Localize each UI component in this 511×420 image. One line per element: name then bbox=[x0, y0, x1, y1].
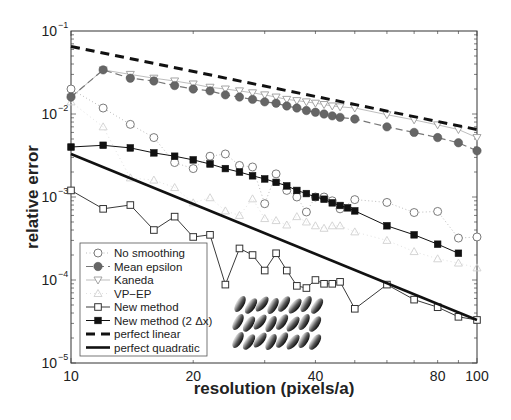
x-tick-label: 10 bbox=[63, 368, 79, 384]
legend-label: perfect quadratic bbox=[114, 342, 200, 354]
y-tick-label: 10 bbox=[41, 189, 57, 205]
y-tick-labels: 10−510−410−310−210−1 bbox=[41, 20, 68, 371]
legend: No smoothingMean epsilonKanedaVP−EPNew m… bbox=[80, 243, 213, 356]
svg-text:−4: −4 bbox=[58, 269, 68, 279]
y-tick-label: 10 bbox=[41, 106, 57, 122]
y-tick-label: 10 bbox=[41, 272, 57, 288]
x-tick-label: 80 bbox=[430, 368, 446, 384]
svg-text:−5: −5 bbox=[58, 352, 68, 362]
svg-text:−1: −1 bbox=[58, 20, 68, 30]
y-tick-label: 10 bbox=[41, 23, 57, 39]
legend-label: No smoothing bbox=[114, 247, 185, 259]
y-axis-label: relative error bbox=[23, 145, 42, 249]
legend-label: VP−EP bbox=[114, 288, 152, 300]
x-tick-label: 100 bbox=[465, 368, 489, 384]
chart-figure: 10−510−410−310−210−1 10204080100 No smoo… bbox=[0, 0, 511, 420]
legend-label: perfect linear bbox=[114, 328, 181, 340]
svg-text:−3: −3 bbox=[58, 186, 68, 196]
legend-label: New method bbox=[114, 301, 179, 313]
y-tick-label: 10 bbox=[41, 355, 57, 371]
legend-label: Mean epsilon bbox=[114, 261, 182, 273]
legend-label: New method (2 Δx) bbox=[114, 315, 213, 327]
x-axis-label: resolution (pixels/a) bbox=[194, 379, 355, 398]
legend-label: Kaneda bbox=[114, 274, 154, 286]
